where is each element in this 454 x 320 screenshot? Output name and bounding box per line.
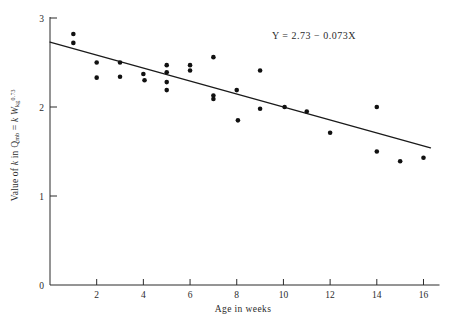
regression-fit-line	[50, 42, 430, 148]
data-point	[375, 105, 380, 110]
data-point	[328, 131, 333, 136]
x-tick-label: 14	[372, 290, 382, 300]
data-point	[258, 106, 263, 111]
data-point	[188, 68, 193, 73]
data-point	[211, 55, 216, 60]
x-tick-label: 16	[419, 290, 429, 300]
x-tick-label: 4	[141, 290, 146, 300]
data-point	[164, 80, 169, 85]
data-point	[236, 118, 241, 123]
data-point	[118, 60, 123, 65]
data-point	[118, 74, 123, 79]
data-point	[164, 70, 169, 75]
data-point	[94, 75, 99, 80]
data-point	[142, 78, 147, 83]
data-point	[282, 105, 287, 110]
x-axis-title: Age in weeks	[215, 304, 272, 314]
data-point	[211, 97, 216, 102]
x-tick-label: 12	[325, 290, 335, 300]
data-point	[141, 72, 146, 77]
y-tick-label: 1	[39, 192, 44, 202]
data-point	[164, 88, 169, 93]
data-point	[375, 149, 380, 154]
regression-line-group	[50, 42, 430, 148]
data-point	[164, 63, 169, 68]
data-point	[421, 155, 426, 160]
data-point	[398, 159, 403, 164]
data-point	[234, 88, 239, 93]
regression-equation-annotation: Y = 2.73 − 0.073X	[272, 30, 356, 41]
data-point	[94, 60, 99, 65]
y-tick-label: 2	[39, 103, 44, 113]
data-point	[304, 109, 309, 114]
y-tick-group: 0123	[39, 14, 57, 291]
x-tick-label: 6	[188, 290, 193, 300]
scatter-plot-figure: 246810121416 0123 Y = 2.73 − 0.073X Age …	[0, 0, 454, 320]
data-point	[258, 68, 263, 73]
data-point	[188, 63, 193, 68]
plot-canvas: 246810121416 0123 Y = 2.73 − 0.073X Age …	[0, 0, 454, 320]
x-tick-label: 8	[234, 290, 239, 300]
data-point	[71, 41, 76, 46]
x-tick-label: 10	[279, 290, 289, 300]
x-tick-group: 246810121416	[94, 279, 428, 300]
y-tick-label: 0	[39, 281, 44, 291]
data-point	[71, 32, 76, 37]
x-tick-label: 2	[94, 290, 99, 300]
axes-group	[50, 17, 440, 285]
y-tick-label: 3	[39, 14, 44, 24]
